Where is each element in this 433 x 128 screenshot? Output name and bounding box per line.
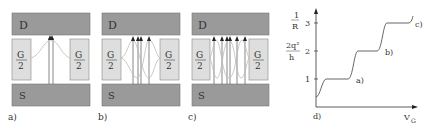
drain-label: D [108, 19, 117, 32]
gate-left-den: 2 [197, 61, 203, 71]
gate-right-num: G [165, 50, 172, 60]
x-label: V [403, 113, 410, 122]
gate-right-den: 2 [76, 61, 82, 71]
gate-left-num: G [196, 50, 203, 60]
panel-a-label: a) [8, 112, 17, 122]
gate-right-num: G [75, 50, 82, 60]
unit-den: h [289, 53, 294, 62]
panel-c-label: c) [188, 112, 197, 122]
tick-2: 2 [305, 47, 310, 56]
gate-right-num: G [254, 50, 261, 60]
source-label: S [19, 90, 26, 101]
gate-left-num: G [107, 50, 114, 60]
figure: D G 2 G 2 S a) D G 2 G 2 S [0, 0, 433, 128]
y-axis-arrow-icon [314, 8, 318, 14]
tick-3: 3 [305, 19, 310, 28]
panel-d-label: d) [313, 112, 321, 121]
conductance-curve [316, 16, 413, 97]
y-label-den: R [292, 22, 299, 31]
conductance-graph: 1 2 3 1 R 2q² h a) b) c) d) V G [286, 8, 423, 124]
unit-num: 2q² [286, 41, 299, 50]
tick-1: 1 [305, 75, 310, 84]
annotation-c: c) [415, 20, 423, 29]
gate-left-den: 2 [108, 61, 114, 71]
panel-a: D G 2 G 2 S a) [8, 13, 90, 122]
drain-label: D [19, 19, 28, 32]
drain-label: D [198, 19, 207, 32]
gate-right-den: 2 [255, 61, 261, 71]
annotation-a: a) [356, 76, 364, 85]
annotation-b: b) [385, 48, 393, 57]
gate-right-den: 2 [166, 61, 172, 71]
gate-left-den: 2 [18, 61, 24, 71]
panel-b: D G 2 G 2 S b) [98, 13, 180, 122]
panel-b-label: b) [98, 112, 107, 122]
x-axis-arrow-icon [412, 105, 418, 109]
panel-c: D G 2 G 2 S c) [188, 13, 269, 122]
y-label-num: 1 [294, 11, 299, 20]
source-label: S [108, 90, 115, 101]
x-label-sub: G [411, 117, 416, 124]
gate-left-num: G [17, 50, 24, 60]
source-label: S [198, 90, 205, 101]
